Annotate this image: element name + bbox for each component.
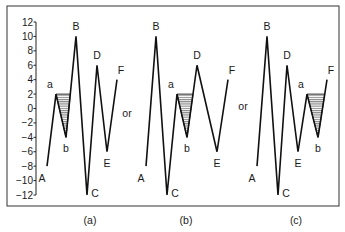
y-tick-label: 12	[22, 17, 34, 28]
panel-c: ABCDEabF	[248, 20, 334, 199]
point-label-F: F	[229, 64, 235, 76]
point-label-b: b	[63, 142, 69, 154]
y-tick-label: 0	[27, 103, 33, 114]
y-tick-label: 2	[27, 89, 33, 100]
point-label-E: E	[103, 157, 110, 169]
y-tick-label: −6	[22, 146, 34, 157]
panel-caption: (c)	[290, 214, 302, 226]
panel-captions: (a)(b)(c)	[84, 214, 303, 226]
panels: AabBCDEFABCabDEFABCDEabF	[38, 20, 334, 199]
or-label: or	[238, 100, 248, 112]
y-tick-label: −8	[22, 161, 34, 172]
y-tick-label: −2	[22, 117, 34, 128]
point-label-F: F	[328, 64, 334, 76]
point-label-B: B	[72, 20, 79, 32]
point-label-E: E	[213, 157, 220, 169]
point-label-E: E	[294, 157, 301, 169]
y-tick-label: 8	[27, 45, 33, 56]
y-tick-label: −12	[16, 190, 33, 201]
point-label-a: a	[168, 78, 174, 90]
point-label-A: A	[137, 172, 144, 184]
point-label-a: a	[298, 78, 304, 90]
y-tick-label: −4	[22, 132, 34, 143]
panel-caption: (a)	[84, 214, 97, 226]
point-label-D: D	[93, 49, 101, 61]
load-history-line	[47, 36, 117, 195]
point-label-C: C	[282, 187, 290, 199]
panel-b: ABCabDEF	[137, 20, 235, 199]
point-label-A: A	[38, 172, 45, 184]
figure-frame	[7, 6, 339, 206]
point-label-b: b	[184, 142, 190, 154]
point-label-F: F	[118, 64, 124, 76]
point-label-B: B	[263, 20, 270, 32]
point-label-D: D	[193, 49, 201, 61]
y-tick-label: 6	[27, 60, 33, 71]
y-tick-label: 10	[22, 31, 34, 42]
or-label: or	[122, 107, 132, 119]
panel-caption: (b)	[180, 214, 193, 226]
point-label-C: C	[91, 187, 99, 199]
panel-a: AabBCDEF	[38, 20, 124, 199]
y-axis: 121086420−2−4−6−8−10−12	[16, 17, 36, 201]
point-label-C: C	[171, 187, 179, 199]
rainflow-diagram: 121086420−2−4−6−8−10−12 AabBCDEFABCabDEF…	[0, 0, 345, 232]
point-label-B: B	[152, 20, 159, 32]
point-label-b: b	[315, 142, 321, 154]
point-label-D: D	[283, 49, 291, 61]
point-label-A: A	[248, 172, 255, 184]
y-tick-label: 4	[27, 74, 33, 85]
point-label-a: a	[47, 78, 53, 90]
y-tick-label: −10	[16, 175, 33, 186]
